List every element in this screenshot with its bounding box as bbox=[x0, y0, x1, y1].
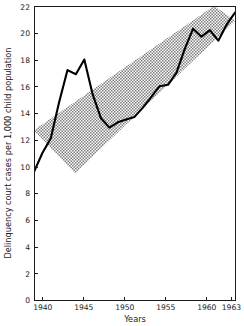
x-tick-label: 1963 bbox=[222, 303, 241, 312]
y-tick-label: 20 bbox=[20, 29, 30, 38]
y-tick-label: 16 bbox=[20, 83, 30, 92]
y-tick-label: 0 bbox=[25, 296, 30, 305]
y-tick-label: 22 bbox=[20, 3, 30, 12]
y-tick-label: 12 bbox=[20, 136, 30, 145]
y-tick-label: 8 bbox=[25, 189, 30, 198]
x-tick-label: 1955 bbox=[156, 303, 175, 312]
x-tick-label: 1945 bbox=[74, 303, 93, 312]
chart-container: 0 2 4 6 8 10 12 14 16 18 20 22 1940 1945… bbox=[0, 0, 244, 326]
chart-plot: 0 2 4 6 8 10 12 14 16 18 20 22 1940 1945… bbox=[0, 0, 244, 326]
y-tick-label: 10 bbox=[20, 163, 30, 172]
y-axis-title: Delinquency court cases per 1,000 child … bbox=[3, 47, 13, 258]
y-tick-label: 14 bbox=[20, 109, 30, 118]
x-tick-label: 1960 bbox=[197, 303, 216, 312]
y-tick-label: 6 bbox=[25, 216, 30, 225]
x-axis-tick-labels: 1940 1945 1950 1955 1960 1963 bbox=[33, 303, 241, 312]
y-tick-label: 18 bbox=[20, 56, 30, 65]
y-tick-label: 2 bbox=[25, 270, 30, 279]
x-tick-label: 1940 bbox=[33, 303, 52, 312]
y-axis-tick-labels: 0 2 4 6 8 10 12 14 16 18 20 22 bbox=[20, 3, 30, 306]
x-axis-title: Years bbox=[123, 314, 146, 324]
x-tick-label: 1950 bbox=[115, 303, 134, 312]
y-tick-label: 4 bbox=[25, 243, 30, 252]
